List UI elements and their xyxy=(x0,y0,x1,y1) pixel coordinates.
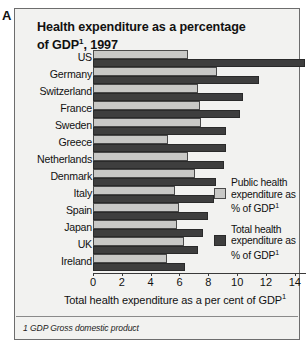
bar-group xyxy=(93,152,306,169)
category-label-germany: Germany xyxy=(0,68,92,80)
category-label-spain: Spain xyxy=(0,204,92,216)
footnote-divider xyxy=(16,316,298,317)
bar-public-france xyxy=(93,101,200,110)
bar-public-greece xyxy=(93,135,168,144)
bar-public-uk xyxy=(93,237,184,246)
bar-public-germany xyxy=(93,67,217,76)
bar-group xyxy=(93,84,306,101)
legend-line1: Public health xyxy=(231,177,287,188)
category-label-us: US xyxy=(0,51,92,63)
chart-footnote: 1 GDP Gross domestic product xyxy=(23,323,139,333)
chart-row: Sweden xyxy=(34,118,306,135)
category-label-netherlands: Netherlands xyxy=(0,153,92,165)
legend-item-total: Total healthexpenditure as% of GDP1 xyxy=(214,224,306,262)
bar-group xyxy=(93,50,306,67)
chart-legend: Public healthexpenditure as% of GDP1Tota… xyxy=(214,177,306,271)
bar-group xyxy=(93,101,306,118)
legend-line1: Total health xyxy=(231,224,281,235)
legend-label-total: Total healthexpenditure as% of GDP1 xyxy=(231,224,306,262)
category-label-italy: Italy xyxy=(0,187,92,199)
bar-total-japan xyxy=(93,229,203,237)
bar-group xyxy=(93,67,306,84)
legend-label-public: Public healthexpenditure as% of GDP1 xyxy=(231,177,306,215)
bar-public-switzerland xyxy=(93,84,198,93)
bar-total-spain xyxy=(93,212,208,220)
x-axis-line xyxy=(93,273,306,274)
category-label-switzerland: Switzerland xyxy=(0,85,92,97)
x-axis-tick-label: 2 xyxy=(119,276,125,288)
chart-panel: Health expenditure as a percentage of GD… xyxy=(14,8,300,340)
legend-line3: % of GDP xyxy=(231,203,275,214)
x-axis-tick-label: 4 xyxy=(148,276,154,288)
bar-total-ireland xyxy=(93,263,185,271)
bar-total-denmark xyxy=(93,178,216,186)
bar-public-japan xyxy=(93,220,177,229)
legend-swatch-total-icon xyxy=(214,235,226,246)
category-label-denmark: Denmark xyxy=(0,170,92,182)
bar-public-ireland xyxy=(93,254,167,263)
bar-public-spain xyxy=(93,203,179,212)
chart-title-line1: Health expenditure as a percentage xyxy=(37,20,246,34)
chart-row: Netherlands xyxy=(34,152,306,169)
bar-group xyxy=(93,135,306,152)
bar-total-switzerland xyxy=(93,93,243,101)
bar-public-denmark xyxy=(93,169,195,178)
x-axis-tick-label: 14 xyxy=(289,276,301,288)
chart-title: Health expenditure as a percentage of GD… xyxy=(37,20,299,52)
bar-total-netherlands xyxy=(93,161,224,169)
bar-total-france xyxy=(93,110,240,118)
chart-row: France xyxy=(34,101,306,118)
legend-item-public: Public healthexpenditure as% of GDP1 xyxy=(214,177,306,215)
bar-total-italy xyxy=(93,195,214,203)
chart-row: Greece xyxy=(34,135,306,152)
legend-footnote-marker: 1 xyxy=(275,249,279,256)
figure-panel-letter: A xyxy=(2,8,11,23)
chart-row: Germany xyxy=(34,67,306,84)
category-label-greece: Greece xyxy=(0,136,92,148)
category-label-france: France xyxy=(0,102,92,114)
bar-total-germany xyxy=(93,76,259,84)
category-label-ireland: Ireland xyxy=(0,255,92,267)
x-axis-tick-label: 10 xyxy=(231,276,243,288)
bar-public-us xyxy=(93,50,188,59)
legend-swatch-public-icon xyxy=(214,188,226,199)
bar-total-us xyxy=(93,59,305,67)
bar-public-sweden xyxy=(93,118,201,127)
x-axis-label-text: Total health expenditure as a per cent o… xyxy=(64,294,282,306)
bar-public-italy xyxy=(93,186,175,195)
chart-row: Switzerland xyxy=(34,84,306,101)
x-axis-tick-label: 0 xyxy=(90,276,96,288)
category-label-japan: Japan xyxy=(0,221,92,233)
bar-public-netherlands xyxy=(93,152,188,161)
bar-total-greece xyxy=(93,144,226,152)
x-axis-tick-label: 6 xyxy=(176,276,182,288)
bar-total-uk xyxy=(93,246,198,254)
legend-line2: expenditure as xyxy=(231,189,296,200)
bar-total-sweden xyxy=(93,127,226,135)
x-axis-label-footnote-marker: 1 xyxy=(282,292,286,301)
bar-group xyxy=(93,118,306,135)
x-axis-tick-label: 12 xyxy=(260,276,272,288)
category-label-sweden: Sweden xyxy=(0,119,92,131)
legend-line2: expenditure as xyxy=(231,235,296,246)
x-axis-tick-label: 8 xyxy=(205,276,211,288)
category-label-uk: UK xyxy=(0,238,92,250)
x-axis-label: Total health expenditure as a per cent o… xyxy=(34,292,306,306)
chart-row: US xyxy=(34,50,306,67)
legend-line3: % of GDP xyxy=(231,250,275,261)
legend-footnote-marker: 1 xyxy=(275,202,279,209)
